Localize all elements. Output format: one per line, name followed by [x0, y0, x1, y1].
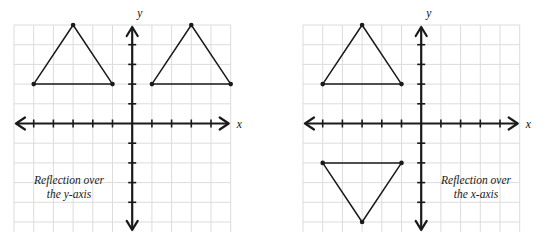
caption-line-2: the y-axis: [47, 188, 92, 201]
grid-lines-right: [303, 25, 520, 232]
y-axis-label: y: [136, 7, 143, 20]
x-axis-label: x: [525, 118, 532, 130]
caption-line-1: Reflection over: [440, 174, 511, 187]
caption-line-2: the x-axis: [454, 188, 499, 200]
coordinate-plane-left: x y Reflection over the y-axis: [0, 0, 277, 247]
y-axis-label: y: [425, 7, 432, 20]
reflections-figure: x y Reflection over the y-axis x y Refle…: [0, 0, 554, 247]
panel-reflection-over-x-axis: x y Reflection over the x-axis: [277, 0, 554, 247]
x-axis-label: x: [236, 118, 243, 130]
grid-lines-left: [14, 25, 231, 232]
caption-line-1: Reflection over: [33, 174, 104, 187]
coordinate-plane-right: x y Reflection over the x-axis: [277, 0, 554, 247]
panel-reflection-over-y-axis: x y Reflection over the y-axis: [0, 0, 277, 247]
